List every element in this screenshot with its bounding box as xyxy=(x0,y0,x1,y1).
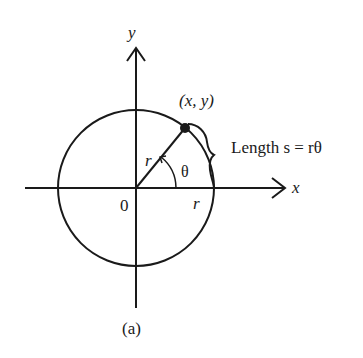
angle-arc xyxy=(161,157,176,188)
origin-label: 0 xyxy=(120,196,129,215)
radius-label-ray: r xyxy=(145,151,152,170)
y-axis-label: y xyxy=(126,23,136,42)
arc-length-label: Length s = rθ xyxy=(231,138,322,157)
radius-label-axis: r xyxy=(193,194,200,213)
angle-label: θ xyxy=(181,163,189,180)
y-axis xyxy=(127,48,145,308)
point-label: (x, y) xyxy=(179,91,214,110)
x-axis xyxy=(25,178,285,198)
unit-circle-figure: y x 0 (x, y) r r θ Length s = rθ (a) xyxy=(0,0,363,358)
figure-caption: (a) xyxy=(122,319,141,338)
x-axis-label: x xyxy=(291,178,300,197)
